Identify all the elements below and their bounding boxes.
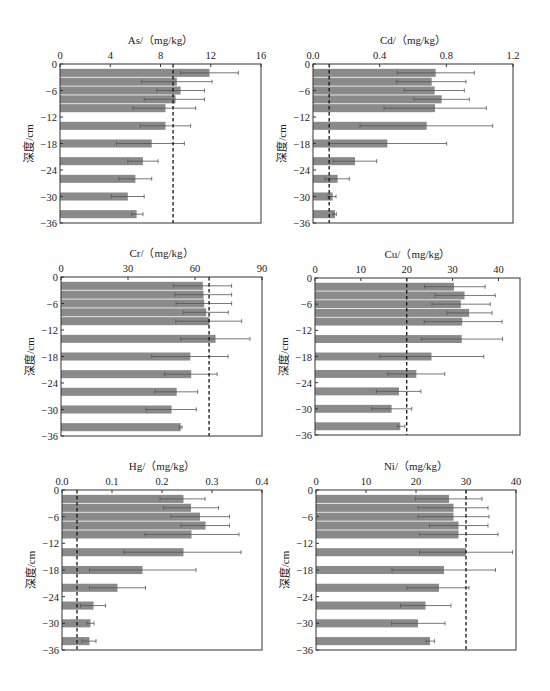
x-tick-label: 4 (108, 50, 114, 61)
x-tick-label: 0.4 (255, 476, 269, 487)
chart-title: Ni/（mg/kg） (384, 460, 448, 472)
y-tick-label: −36 (296, 430, 312, 441)
y-tick-label: −30 (41, 192, 57, 203)
chart-title: Hg/（mg/kg） (129, 460, 196, 472)
chart-title: As/（mg/kg） (128, 34, 193, 46)
x-tick-label: 30 (461, 476, 472, 487)
chart-title: Cr/（mg/kg） (129, 247, 193, 259)
y-tick-label: −24 (297, 592, 314, 603)
y-tick-label: −6 (299, 86, 310, 97)
y-tick-label: −18 (296, 352, 312, 363)
y-tick-label: −6 (301, 299, 312, 310)
y-tick-label: −18 (297, 565, 313, 576)
y-axis-label: 深度/cm (23, 337, 36, 376)
y-tick-label: −30 (43, 618, 59, 629)
y-tick-label: −36 (43, 645, 59, 656)
y-tick-label: −30 (294, 192, 310, 203)
y-tick-label: −12 (296, 325, 312, 336)
bar (316, 637, 430, 645)
y-tick-label: −12 (42, 325, 58, 336)
y-tick-label: −12 (297, 538, 313, 549)
y-tick-label: −30 (42, 405, 58, 416)
y-tick-label: 0 (53, 272, 58, 283)
y-tick-label: −36 (294, 218, 310, 229)
y-tick-label: 0 (307, 273, 312, 284)
x-tick-label: 0.1 (105, 476, 118, 487)
x-tick-label: 30 (447, 264, 458, 275)
y-tick-label: −6 (46, 86, 57, 97)
x-tick-label: 40 (511, 476, 522, 487)
x-tick-label: 10 (356, 264, 367, 275)
chart-cu: Cu/（mg/kg）0102030400−6−12−18−24−30−36深度/… (277, 248, 520, 441)
y-tick-label: −24 (42, 378, 59, 389)
bar (315, 422, 400, 430)
y-tick-label: −12 (41, 112, 57, 123)
y-tick-label: 0 (305, 59, 310, 70)
x-tick-label: 0.3 (205, 476, 218, 487)
bar (313, 210, 335, 218)
y-tick-label: 0 (308, 485, 313, 496)
x-tick-label: 0 (57, 50, 62, 61)
y-tick-label: 0 (54, 485, 59, 496)
figure: As/（mg/kg）04812160−6−12−18−24−30−36深度/cm… (0, 0, 550, 691)
chart-title: Cu/（mg/kg） (384, 248, 450, 260)
y-tick-label: −12 (294, 112, 310, 123)
x-tick-label: 10 (361, 476, 372, 487)
y-axis-label: 深度/cm (22, 124, 35, 163)
x-tick-label: 0.2 (155, 476, 168, 487)
x-tick-label: 1.2 (506, 50, 519, 61)
chart-as: As/（mg/kg）04812160−6−12−18−24−30−36深度/cm (22, 34, 266, 229)
x-tick-label: 8 (158, 50, 163, 61)
x-tick-label: 60 (190, 263, 201, 274)
chart-title: Cd/（mg/kg） (380, 34, 446, 46)
y-tick-label: −18 (41, 139, 57, 150)
y-tick-label: −18 (42, 352, 58, 363)
y-axis-label: 深度/cm (278, 550, 291, 589)
y-axis-label: 深度/cm (275, 124, 288, 163)
chart-hg: Hg/（mg/kg）0.00.10.20.30.40−6−12−18−24−30… (24, 460, 269, 656)
y-tick-label: −30 (296, 404, 312, 415)
y-tick-label: −6 (47, 299, 58, 310)
y-tick-label: −6 (48, 512, 59, 523)
chart-cd: Cd/（mg/kg）0.00.40.81.20−6−12−18−24−30−36… (275, 34, 520, 229)
y-tick-label: −36 (42, 431, 58, 442)
y-tick-label: −18 (43, 565, 59, 576)
y-tick-label: −24 (43, 592, 60, 603)
y-tick-label: 0 (52, 59, 57, 70)
y-tick-label: −36 (41, 218, 57, 229)
x-tick-label: 30 (123, 263, 134, 274)
bar (315, 309, 469, 317)
x-tick-label: 20 (401, 264, 412, 275)
y-tick-label: −30 (297, 618, 313, 629)
chart-ni: Ni/（mg/kg）0102030400−6−12−18−24−30−36深度/… (278, 460, 521, 656)
x-tick-label: 0 (313, 476, 318, 487)
x-tick-label: 0 (312, 264, 317, 275)
y-tick-label: −12 (43, 538, 59, 549)
y-tick-label: −24 (294, 165, 311, 176)
y-tick-label: −24 (296, 378, 313, 389)
x-tick-label: 12 (206, 50, 217, 61)
y-tick-label: −18 (294, 139, 310, 150)
x-tick-label: 16 (256, 50, 267, 61)
x-tick-label: 20 (411, 476, 422, 487)
x-tick-label: 0.4 (373, 50, 387, 61)
x-tick-label: 90 (257, 263, 268, 274)
x-tick-label: 0 (58, 263, 63, 274)
y-tick-label: −24 (41, 165, 58, 176)
bar (61, 423, 181, 431)
bar (62, 619, 91, 627)
x-tick-label: 0.8 (440, 50, 453, 61)
bar (60, 210, 137, 218)
y-axis-label: 深度/cm (277, 337, 290, 376)
y-tick-label: −6 (302, 512, 313, 523)
figure-canvas: As/（mg/kg）04812160−6−12−18−24−30−36深度/cm… (0, 0, 550, 691)
x-tick-label: 40 (493, 264, 504, 275)
y-axis-label: 深度/cm (24, 550, 37, 589)
y-tick-label: −36 (297, 645, 313, 656)
chart-cr: Cr/（mg/kg）03060900−6−12−18−24−30−36深度/cm (23, 247, 267, 442)
